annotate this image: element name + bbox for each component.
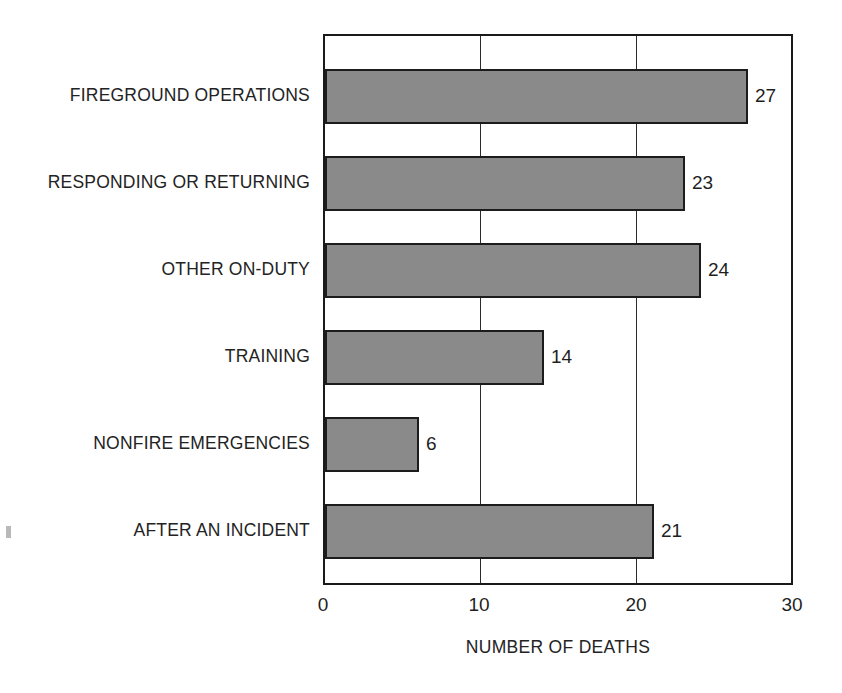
xtick-label-10: 10: [459, 594, 499, 616]
category-label-nonfire-emergencies: NONFIRE EMERGENCIES: [0, 433, 310, 454]
category-label-fireground-operations: FIREGROUND OPERATIONS: [0, 85, 310, 106]
category-label-other-on-duty: OTHER ON-DUTY: [0, 259, 310, 280]
value-label-fireground-operations: 27: [755, 85, 776, 107]
value-label-other-on-duty: 24: [708, 259, 729, 281]
xtick-label-20: 20: [616, 594, 656, 616]
value-label-nonfire-emergencies: 6: [426, 433, 437, 455]
value-label-responding-or-returning: 23: [692, 172, 713, 194]
value-label-training: 14: [551, 346, 572, 368]
category-label-responding-or-returning: RESPONDING OR RETURNING: [0, 172, 310, 193]
chart-page: FIREGROUND OPERATIONS RESPONDING OR RETU…: [0, 0, 842, 693]
plot-area: [323, 34, 793, 585]
xtick-label-0: 0: [303, 594, 343, 616]
x-axis-title: NUMBER OF DEATHS: [323, 637, 793, 658]
bar-fireground-operations: [325, 69, 748, 124]
bar-other-on-duty: [325, 243, 701, 298]
value-label-after-an-incident: 21: [661, 520, 682, 542]
bar-responding-or-returning: [325, 156, 685, 211]
category-label-training: TRAINING: [0, 346, 310, 367]
bar-training: [325, 330, 544, 385]
xtick-label-30: 30: [772, 594, 812, 616]
category-label-after-an-incident: AFTER AN INCIDENT: [0, 520, 310, 541]
bar-after-an-incident: [325, 504, 654, 559]
bar-nonfire-emergencies: [325, 417, 419, 472]
